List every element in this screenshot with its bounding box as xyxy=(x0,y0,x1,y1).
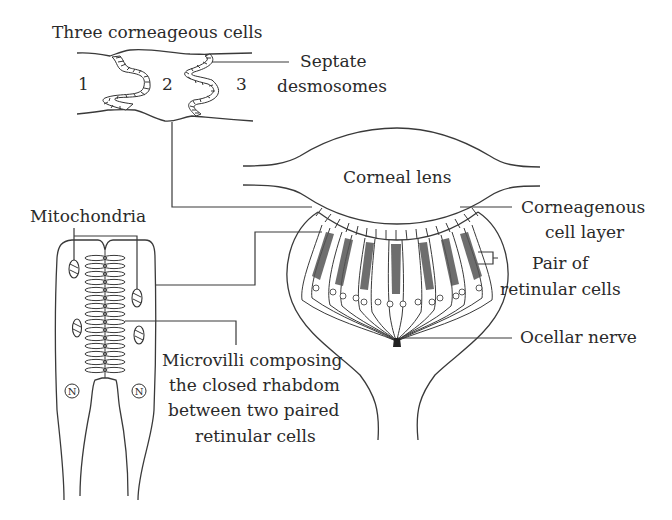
label-mitochondria: Mitochondria xyxy=(30,206,146,226)
label-microvilli-3: between two paired xyxy=(168,400,339,420)
label-cell-3: 3 xyxy=(236,74,247,94)
label-corneal-lens: Corneal lens xyxy=(343,167,452,187)
svg-text:N: N xyxy=(68,386,77,397)
label-corneagenous-2: cell layer xyxy=(545,222,625,242)
label-three-cells: Three corneageous cells xyxy=(52,22,262,42)
nucleus-left: N xyxy=(65,384,79,398)
label-corneagenous-1: Corneagenous xyxy=(521,197,645,217)
label-septate-2: desmosomes xyxy=(277,76,387,96)
label-ocellar-nerve: Ocellar nerve xyxy=(520,327,637,347)
leader-detail-to-ocellus xyxy=(156,232,322,285)
label-cell-2: 2 xyxy=(162,74,173,94)
label-septate-1: Septate xyxy=(300,51,366,71)
label-microvilli-4: retinular cells xyxy=(195,426,316,446)
nucleus-right: N xyxy=(132,384,146,398)
septate-desmosome-left xyxy=(103,56,150,110)
label-pair-1: Pair of xyxy=(532,253,590,273)
label-pair-2: retinular cells xyxy=(500,279,621,299)
corneagenous-cells-inset: Three corneageous cells 1 2 3 Septate de… xyxy=(52,22,387,207)
label-microvilli-2: the closed rhabdom xyxy=(169,375,340,395)
retinular-cells xyxy=(302,225,493,347)
label-microvilli-1: Microvilli composing xyxy=(162,350,343,370)
leader-retinular-pair xyxy=(478,252,498,264)
svg-text:N: N xyxy=(135,386,144,397)
label-cell-1: 1 xyxy=(78,74,89,94)
septate-desmosome-right xyxy=(185,54,219,116)
ocellus-diagram: Three corneageous cells 1 2 3 Septate de… xyxy=(0,0,672,520)
